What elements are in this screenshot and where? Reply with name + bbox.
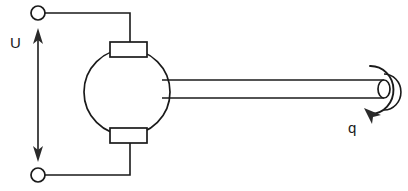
flow-rate-label: q — [348, 119, 356, 136]
schematic-drawing: U q — [0, 0, 408, 191]
nozzle-bore-opening — [378, 80, 390, 98]
electrode-bottom — [110, 128, 147, 143]
wire-top — [45, 13, 130, 42]
terminal-node-top — [31, 6, 45, 20]
terminal-node-bottom — [31, 168, 45, 182]
flow-curl-arrow-head — [364, 108, 381, 124]
spherical-chamber — [84, 49, 170, 135]
electrode-top — [110, 42, 147, 57]
wire-bottom — [45, 143, 130, 175]
voltage-label: U — [10, 34, 21, 51]
diagram-canvas: U q — [0, 0, 408, 191]
